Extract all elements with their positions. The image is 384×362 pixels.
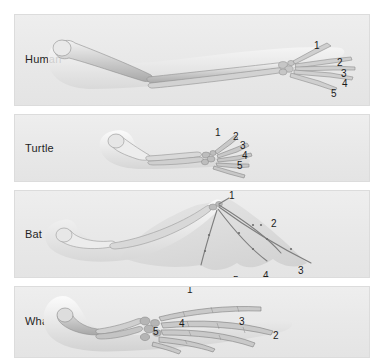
digit-label-whale-1: 1: [187, 286, 193, 295]
panel-whale: Whale: [14, 286, 370, 358]
digit-label-turtle-5: 5: [237, 161, 243, 171]
digit-label-whale-4: 4: [179, 319, 185, 329]
whale-flipper-illustration: [15, 287, 370, 358]
homologous-limbs-figure: Humerus Radius Ulna Carpal Metacarpal Ph…: [0, 0, 384, 362]
digit-label-bat-5: 5: [233, 276, 239, 278]
panel-bat: Bat: [14, 190, 370, 278]
digit-label-human-5: 5: [331, 89, 337, 99]
turtle-flipper-illustration: [15, 115, 370, 182]
digit-label-bat-3: 3: [298, 266, 304, 276]
human-arm-illustration: [15, 15, 370, 106]
digit-label-human-4: 4: [342, 79, 348, 89]
digit-label-bat-1: 1: [229, 191, 235, 201]
digit-label-human-2: 2: [337, 58, 343, 68]
digit-label-human-1: 1: [314, 41, 320, 51]
digit-label-whale-2: 2: [273, 331, 279, 341]
digit-label-turtle-1: 1: [215, 128, 221, 138]
bat-wing-illustration: [15, 191, 370, 278]
panel-turtle: Turtle: [14, 114, 370, 182]
panel-human: Human: [14, 14, 370, 106]
digit-label-bat-4: 4: [263, 271, 269, 278]
digit-label-turtle-2: 2: [233, 132, 239, 142]
digit-label-whale-5: 5: [153, 327, 159, 337]
digit-label-bat-2: 2: [271, 219, 277, 229]
digit-label-whale-3: 3: [239, 317, 245, 327]
